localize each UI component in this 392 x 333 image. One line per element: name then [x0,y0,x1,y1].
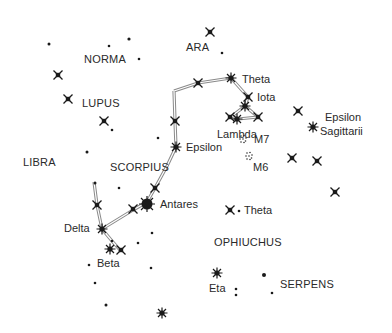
label-norma: NORMA [84,53,126,65]
label-scorpius: SCORPIUS [110,161,169,173]
label-sagittarii: Sagittarii [320,125,363,137]
label-m7: M7 [254,133,269,145]
label-serpens: SERPENS [280,278,334,290]
label-iota: Iota [257,91,275,103]
label-beta: Beta [97,257,120,269]
label-epsilon-sco: Epsilon [186,141,222,153]
label-lupus: LUPUS [82,97,120,109]
label-antares: Antares [160,198,198,210]
label-m6: M6 [253,161,268,173]
label-theta-oph: Theta [244,204,272,216]
label-epsilon-sgr: Epsilon [325,111,361,123]
label-theta-sco: Theta [242,73,270,85]
label-lambda: Lambda [217,128,257,140]
label-ara: ARA [186,41,209,53]
m6-cluster-icon [245,152,253,161]
label-eta: Eta [209,282,226,294]
label-delta: Delta [64,222,90,234]
label-libra: LIBRA [23,156,56,168]
label-ophiuchus: OPHIUCHUS [214,236,282,248]
antares-star [139,196,155,212]
